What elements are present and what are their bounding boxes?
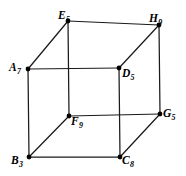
edge-B-A: [28, 69, 29, 157]
edge-F-E: [68, 21, 69, 116]
edge-A-D: [28, 68, 119, 69]
vertex-dot-B: [27, 155, 32, 160]
vertex-subscript-A: 7: [17, 67, 21, 76]
vertex-subscript-E: 5: [66, 15, 70, 24]
vertex-label-H: H9: [149, 13, 162, 25]
edge-D-H: [119, 25, 159, 68]
edge-C-G: [120, 114, 160, 157]
edge-D-C: [119, 68, 120, 157]
vertex-label-B: B3: [11, 155, 23, 167]
vertex-letter-F: F: [71, 115, 79, 127]
vertex-letter-E: E: [58, 9, 66, 21]
cube-edges: [28, 21, 160, 157]
edge-B-F: [29, 116, 69, 157]
cube-diagram-figure: E5 H9 A7 D5 F9 G5 B3 C8: [0, 0, 186, 176]
vertex-label-F: F9: [71, 116, 83, 128]
cube-vertices: [26, 19, 163, 160]
vertex-letter-B: B: [11, 154, 19, 166]
vertex-subscript-H: 9: [158, 18, 162, 27]
vertex-dot-G: [158, 112, 163, 117]
edge-A-E: [28, 21, 68, 69]
vertex-letter-C: C: [122, 154, 130, 166]
vertex-letter-D: D: [122, 67, 130, 79]
vertex-subscript-C: 8: [130, 160, 134, 169]
vertex-label-C: C8: [122, 155, 134, 167]
edge-H-G: [159, 25, 160, 114]
vertex-dot-A: [26, 67, 31, 72]
vertex-subscript-F: 9: [79, 121, 83, 130]
vertex-subscript-D: 5: [131, 73, 135, 82]
vertex-letter-A: A: [9, 61, 17, 73]
vertex-letter-H: H: [149, 12, 158, 24]
vertex-label-D: D5: [122, 68, 135, 80]
vertex-label-G: G5: [163, 108, 176, 120]
edge-E-H: [68, 21, 159, 25]
vertex-label-A: A7: [9, 62, 21, 74]
vertex-dot-D: [117, 66, 122, 71]
vertex-subscript-G: 5: [172, 113, 176, 122]
vertex-label-E: E5: [58, 10, 70, 22]
vertex-letter-G: G: [163, 107, 171, 119]
vertex-subscript-B: 3: [19, 160, 23, 169]
